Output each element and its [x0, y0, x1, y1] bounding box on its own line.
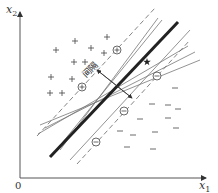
circled-minus-icon	[153, 72, 161, 80]
circled-plus-icon	[113, 46, 121, 54]
plus-icon	[82, 59, 88, 65]
circled-plus-icon	[78, 83, 86, 91]
negative-points	[117, 88, 181, 149]
circled-minus-icon	[92, 138, 100, 146]
alternative-line	[45, 52, 195, 128]
optimal-hyperplane	[50, 22, 178, 157]
plus-icon	[53, 47, 59, 53]
plus-icon	[48, 74, 54, 80]
plus-icon	[47, 90, 53, 96]
x-axis-label: x1	[199, 180, 210, 193]
margin-upper-line	[37, 8, 155, 136]
origin-label: 0	[15, 180, 21, 191]
plus-icon	[59, 90, 65, 96]
plus-icon	[88, 45, 94, 51]
svm-diagram: 间隔	[0, 0, 218, 193]
alternative-line	[70, 30, 190, 160]
alternative-line	[58, 20, 162, 148]
plus-icon	[101, 50, 107, 56]
optimal-line	[50, 22, 178, 157]
plus-icon	[72, 38, 78, 44]
plus-icon	[71, 59, 77, 65]
plus-icon	[104, 34, 110, 40]
y-axis-label: x2	[6, 4, 17, 18]
alternative-hyperplanes	[38, 18, 200, 160]
plus-icon	[69, 76, 75, 82]
circled-minus-icon	[120, 107, 128, 115]
